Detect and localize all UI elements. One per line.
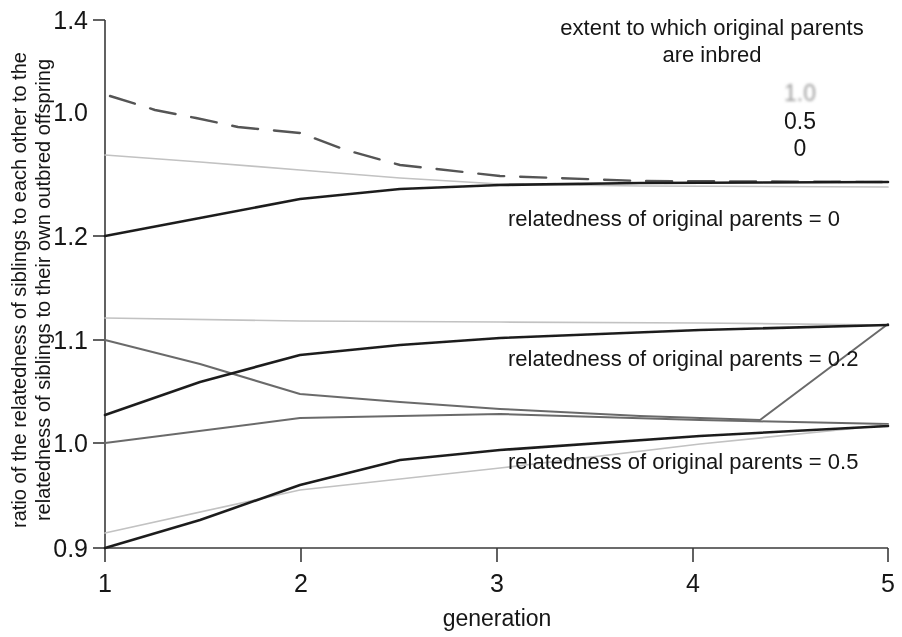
y-axis-title: ratio of the relatedness of siblings to … (8, 52, 54, 528)
y-axis-title-line2: relatedness of siblings to their own out… (32, 59, 54, 521)
series-line-inbred-1.0-group-2 (105, 414, 888, 443)
series-line-inbred-0-group-2 (105, 426, 888, 548)
chart-figure: 1.4 1.0 1.2 1.1 1.0 0.9 1 2 3 4 5 genera… (0, 0, 902, 637)
y-tick-marks (93, 20, 105, 548)
legend-label-1.0: 1.0 (784, 80, 816, 106)
series-line-inbred-1.0-group-0 (110, 96, 888, 182)
legend-item-1.0[interactable]: 1.0 (690, 80, 816, 106)
x-tick-label-2: 3 (490, 569, 504, 597)
legend-title-line1: extent to which original parents (560, 15, 863, 40)
legend: extent to which original parents are inb… (560, 15, 863, 161)
y-tick-labels: 1.4 1.0 1.2 1.1 1.0 0.9 (53, 6, 88, 562)
x-tick-labels: 1 2 3 4 5 (98, 569, 895, 597)
y-tick-label-1: 1.0 (53, 98, 88, 126)
x-tick-marks (105, 548, 888, 562)
legend-item-0.5[interactable]: 0.5 (690, 108, 816, 134)
y-tick-label-0: 1.4 (53, 6, 88, 34)
x-axis-title: generation (443, 605, 552, 631)
series-line-inbred-0.5-group-1 (105, 318, 888, 325)
legend-title-line2: are inbred (662, 42, 761, 67)
y-tick-label-2: 1.2 (53, 222, 88, 250)
series-line-inbred-0.5-group-2 (105, 425, 888, 533)
series-group-relatedness-0.5 (105, 414, 888, 548)
x-tick-label-0: 1 (98, 569, 112, 597)
line-chart: 1.4 1.0 1.2 1.1 1.0 0.9 1 2 3 4 5 genera… (0, 0, 902, 637)
annotation-relatedness-0.2: relatedness of original parents = 0.2 (508, 346, 858, 371)
y-tick-label-3: 1.1 (53, 326, 88, 354)
x-tick-label-1: 2 (294, 569, 308, 597)
x-tick-label-4: 5 (881, 569, 895, 597)
annotation-relatedness-0.5: relatedness of original parents = 0.5 (508, 449, 858, 474)
annotation-relatedness-0: relatedness of original parents = 0 (508, 206, 840, 231)
y-tick-label-5: 0.9 (53, 534, 88, 562)
x-tick-label-3: 4 (686, 569, 700, 597)
legend-label-0.5: 0.5 (784, 108, 816, 134)
legend-item-0[interactable]: 0 (690, 135, 806, 161)
legend-label-0: 0 (794, 135, 807, 161)
y-axis-title-line1: ratio of the relatedness of siblings to … (8, 52, 30, 528)
y-tick-label-4: 1.0 (53, 429, 88, 457)
